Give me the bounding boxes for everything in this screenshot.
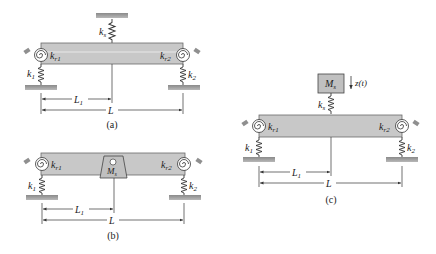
spring-k2 xyxy=(399,137,405,158)
label-k1: k1 xyxy=(245,142,253,155)
spring-k1 xyxy=(38,64,44,85)
ground-left xyxy=(26,195,58,200)
caption-c: (c) xyxy=(325,194,336,206)
label-ks: ks xyxy=(99,26,106,39)
label-k1: k1 xyxy=(27,68,35,81)
rotational-spring-kr1 xyxy=(36,158,49,171)
spring-ks xyxy=(109,19,115,43)
ground-top xyxy=(96,13,128,18)
dimension-L: L xyxy=(325,178,332,189)
panel-a: ks kr1 k1 kr2 k2 L1 L (a) xyxy=(23,13,200,131)
panel-b: Ms kr1 k1 kr2 k2 L1 L (b) xyxy=(23,153,202,242)
label-k2: k2 xyxy=(188,69,196,82)
rotational-spring-kr2 xyxy=(178,158,191,171)
support-pad-right xyxy=(412,120,419,127)
beam-diagram-figure: ks kr1 k1 kr2 k2 L1 L (a) Ms xyxy=(0,0,436,254)
dimension-L1: L1 xyxy=(74,204,84,217)
dimension-L: L xyxy=(108,215,115,226)
label-ks: ks xyxy=(318,99,325,112)
spring-ks xyxy=(328,93,334,114)
rotational-spring-kr2 xyxy=(396,120,409,133)
support-pad-right xyxy=(193,48,200,55)
panel-c: Ms z(t) ks kr1 k1 kr2 k2 L1 L (c) xyxy=(241,74,419,206)
ground-left xyxy=(25,85,57,90)
support-pad-left xyxy=(241,120,248,127)
label-z: z(t) xyxy=(354,78,367,88)
label-k2: k2 xyxy=(407,142,415,155)
spring-k1 xyxy=(256,137,262,158)
spring-k2 xyxy=(180,64,186,85)
spring-k1 xyxy=(39,175,45,196)
rotational-spring-kr1 xyxy=(253,120,266,133)
ground-left xyxy=(243,157,275,162)
ground-right xyxy=(168,85,200,90)
label-k1: k1 xyxy=(28,180,36,193)
support-pad-left xyxy=(23,48,30,55)
dimension-L1: L1 xyxy=(73,94,83,107)
dimension-L1: L1 xyxy=(291,167,301,180)
mass-pin-icon xyxy=(110,159,116,165)
ground-right xyxy=(386,157,418,162)
caption-b: (b) xyxy=(107,230,119,242)
label-k2: k2 xyxy=(189,180,197,193)
support-pad-left xyxy=(23,158,30,165)
caption-a: (a) xyxy=(106,119,117,131)
rotational-spring-kr2 xyxy=(177,49,190,62)
support-pad-right xyxy=(195,158,202,165)
spring-k2 xyxy=(181,175,187,196)
ground-right xyxy=(169,195,201,200)
dimension-L: L xyxy=(107,105,114,116)
rotational-spring-kr1 xyxy=(35,49,48,62)
